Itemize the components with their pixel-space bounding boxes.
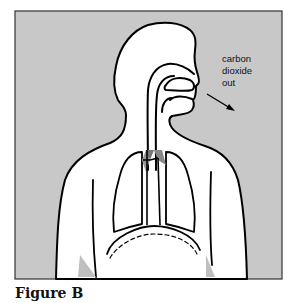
label-line-3: out — [222, 77, 236, 88]
label-line-2: dioxide — [222, 65, 252, 76]
figure-caption: Figure B — [15, 283, 83, 303]
label-line-1: carbon — [222, 53, 251, 64]
